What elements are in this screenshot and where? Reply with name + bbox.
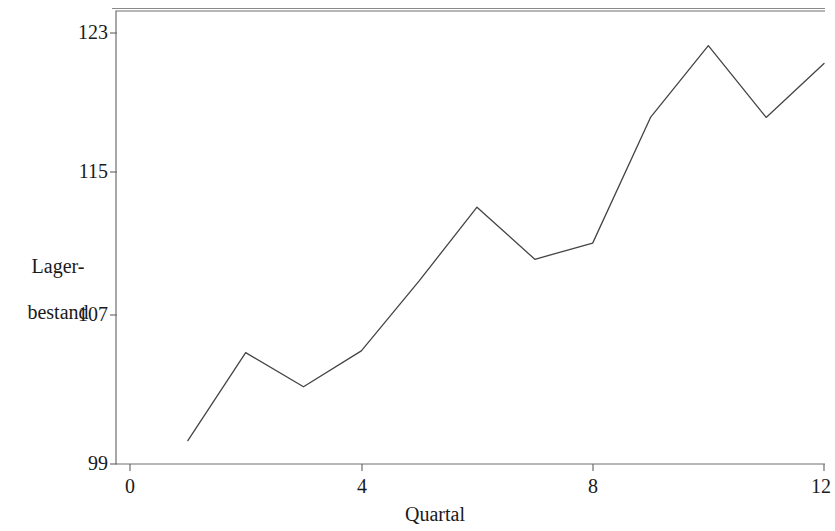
plot-frame — [116, 11, 825, 464]
x-tick-label-4: 4 — [342, 476, 382, 496]
y-tick-label-115: 115 — [38, 161, 108, 181]
y-tick-label-123: 123 — [38, 22, 108, 42]
x-tick-label-8: 8 — [573, 476, 613, 496]
y-tick-label-99: 99 — [38, 453, 108, 473]
x-axis-title: Quartal — [375, 503, 495, 526]
y-axis-title: Lager- bestand — [6, 232, 110, 347]
x-tick-marks — [130, 464, 824, 471]
x-tick-label-0: 0 — [110, 476, 150, 496]
y-axis-title-line1: Lager- — [6, 255, 110, 278]
y-axis-title-line2: bestand — [6, 301, 110, 324]
data-series-line — [188, 46, 824, 441]
x-tick-label-12: 12 — [801, 476, 835, 496]
